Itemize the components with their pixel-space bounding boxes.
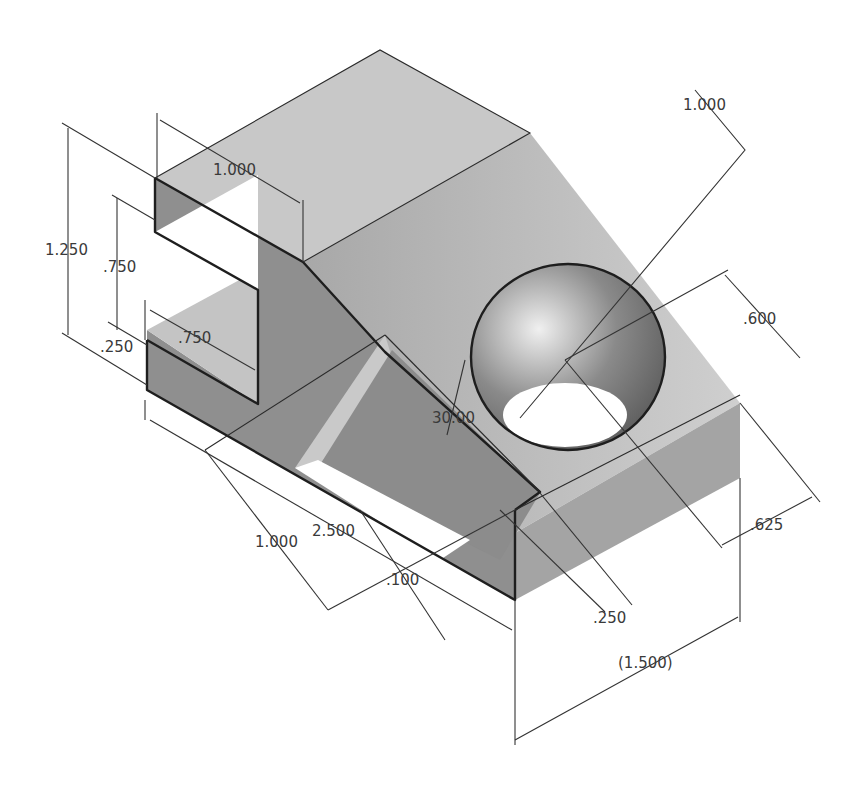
dim-slot-height: .750 <box>103 258 136 276</box>
dim-slot-depth: .750 <box>178 329 211 347</box>
dim-hole-offset-y: .600 <box>743 310 776 328</box>
dim-hole-offset-x: .625 <box>750 516 783 534</box>
dim-cut-width: 1.000 <box>255 533 298 551</box>
dim-overall-width-ref: (1.500) <box>618 654 673 672</box>
dim-overall-height: 1.250 <box>45 241 88 259</box>
dim-base-thickness: .250 <box>100 338 133 356</box>
dim-top-depth: 1.000 <box>213 161 256 179</box>
dim-overall-length: 2.500 <box>312 522 355 540</box>
dim-hole-diameter: 1.000 <box>683 96 726 114</box>
dim-chamfer: .100 <box>386 571 419 589</box>
dim-angle: 30.00 <box>432 409 475 427</box>
dim-rib-width: .250 <box>593 609 626 627</box>
isometric-part-drawing: 1.250 .750 .250 1.000 .750 1.000 .600 30… <box>0 0 864 802</box>
